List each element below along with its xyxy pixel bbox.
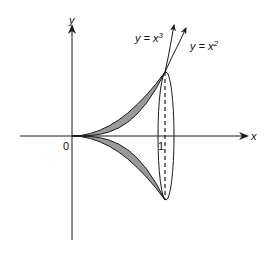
quadratic-curve-extension [165,28,186,72]
solid-of-revolution-diagram: y x 0 1 y = x3 y = x2 [0,0,268,253]
upper-shaded-region [72,72,165,136]
cubic-curve-label: y = x3 [134,31,164,44]
x-axis-label: x [250,130,257,142]
lower-shaded-region [72,136,165,200]
origin-label: 0 [63,140,69,152]
quadratic-curve-label: y = x2 [189,39,219,52]
tick-label-one: 1 [158,140,164,152]
cubic-label-text: y = x [134,32,159,44]
cubic-label-exponent: 3 [159,31,164,40]
quadratic-label-text: y = x [189,40,214,52]
cubic-curve-extension [165,25,174,72]
quadratic-label-exponent: 2 [213,39,219,48]
y-axis-label: y [68,14,76,26]
